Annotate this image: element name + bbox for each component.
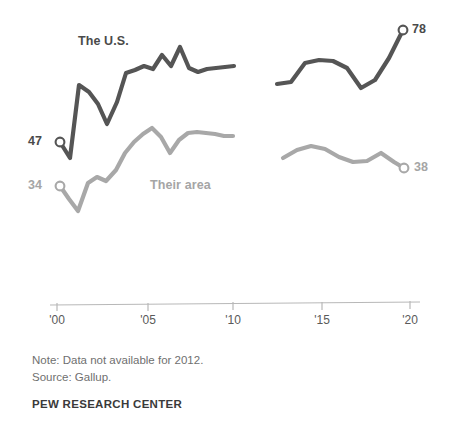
- x-tick-label-15: '15: [314, 313, 330, 327]
- endpoint-marker-47: [56, 138, 65, 147]
- footer-notes: Note: Data not available for 2012. Sourc…: [32, 352, 442, 386]
- series-the-us-right-segment: [277, 30, 403, 88]
- x-axis-line: [50, 302, 420, 305]
- endpoint-label-34: 34: [28, 178, 42, 192]
- line-chart-plot: [0, 0, 458, 340]
- endpoint-marker-78: [399, 26, 408, 35]
- x-tick-label-05: '05: [140, 313, 156, 327]
- x-tick-label-00: '00: [49, 313, 65, 327]
- chart-container: The U.S. Their area 47 34 78 38 '00 '05 …: [0, 0, 458, 421]
- x-tick-label-10: '10: [225, 313, 241, 327]
- endpoint-marker-34: [56, 182, 65, 191]
- series-the-us-left-segment: [60, 47, 234, 158]
- endpoint-label-78: 78: [412, 22, 426, 36]
- chart-note: Note: Data not available for 2012.: [32, 352, 442, 369]
- series-label-their-area: Their area: [150, 178, 211, 192]
- series-their-area-left-segment: [60, 128, 233, 211]
- x-tick-label-20: '20: [402, 313, 418, 327]
- series-their-area-right-segment: [283, 146, 404, 168]
- endpoint-marker-38: [400, 164, 409, 173]
- endpoint-label-38: 38: [414, 160, 428, 174]
- pew-research-center-brand: PEW RESEARCH CENTER: [32, 398, 182, 410]
- endpoint-label-47: 47: [28, 134, 42, 148]
- chart-source: Source: Gallup.: [32, 369, 442, 386]
- series-label-the-us: The U.S.: [78, 34, 129, 48]
